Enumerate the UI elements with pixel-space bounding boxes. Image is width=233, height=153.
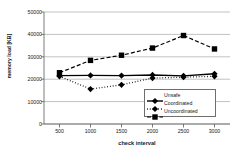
- legend-marker-icon: [146, 91, 164, 99]
- x-axis-tick-labels: 50010001500200025003000: [0, 128, 233, 138]
- data-point-marker: [87, 72, 93, 78]
- x-tick-label: 500: [43, 128, 77, 134]
- legend-item-unsafe[interactable]: Unsafe: [146, 91, 213, 99]
- legend-marker-icon: [146, 99, 164, 107]
- x-axis-title: check interval: [44, 140, 230, 146]
- x-tick-label: 3000: [198, 128, 232, 134]
- data-point-marker: [149, 75, 155, 81]
- legend-label: Uncoordinated: [164, 107, 198, 115]
- x-tick-label: 2000: [136, 128, 170, 134]
- data-point-marker: [88, 58, 93, 63]
- data-point-marker: [181, 33, 186, 38]
- x-tick-label: 1500: [105, 128, 139, 134]
- series-line: [60, 74, 215, 76]
- series-unsafe: [56, 71, 217, 79]
- legend-label: Unsafe: [164, 91, 180, 99]
- legend-item-uncoordinated[interactable]: Uncoordinated: [146, 107, 213, 115]
- legend-marker-icon: [146, 107, 164, 115]
- legend-label: Coordinated: [164, 99, 192, 107]
- data-point-marker: [118, 73, 124, 79]
- legend-item-coordinated[interactable]: Coordinated: [146, 99, 213, 107]
- x-tick-label: 2500: [167, 128, 201, 134]
- x-tick-label: 1000: [74, 128, 108, 134]
- chart-legend: UnsafeCoordinatedUncoordinated: [144, 89, 216, 117]
- data-point-marker: [119, 53, 124, 58]
- data-point-marker: [118, 82, 124, 88]
- series-uncoordinated: [57, 33, 217, 76]
- series-line: [60, 36, 215, 73]
- data-point-marker: [150, 45, 155, 50]
- legend-square-marker: [152, 114, 157, 119]
- series-line: [60, 76, 215, 89]
- data-point-marker: [212, 46, 217, 51]
- data-point-marker: [87, 86, 93, 92]
- data-point-marker: [57, 70, 62, 75]
- memory-load-chart: memory load [KB] 01000020000300004000050…: [0, 0, 233, 153]
